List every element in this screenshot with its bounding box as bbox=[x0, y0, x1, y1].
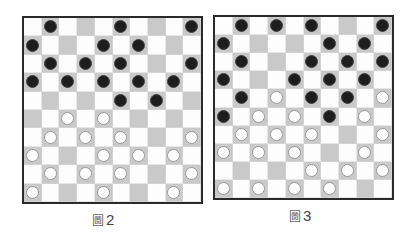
light-square bbox=[374, 180, 392, 198]
white-piece-icon bbox=[270, 91, 283, 104]
dark-square bbox=[339, 89, 357, 107]
white-piece-icon bbox=[97, 186, 110, 199]
light-square bbox=[357, 126, 375, 144]
black-piece-icon bbox=[79, 57, 92, 70]
dark-square bbox=[130, 110, 148, 128]
dark-square bbox=[304, 53, 322, 71]
white-piece-icon bbox=[305, 164, 318, 177]
light-square bbox=[304, 35, 322, 53]
black-piece-icon bbox=[305, 91, 318, 104]
light-square bbox=[286, 53, 304, 71]
dark-square bbox=[286, 71, 304, 89]
figure-3-caption: 圖 3 bbox=[289, 207, 311, 224]
dark-square bbox=[95, 147, 113, 165]
light-square bbox=[374, 71, 392, 89]
white-piece-icon bbox=[217, 146, 230, 159]
dark-square bbox=[130, 36, 148, 54]
light-square bbox=[339, 180, 357, 198]
light-square bbox=[250, 53, 268, 71]
light-square bbox=[374, 108, 392, 126]
black-piece-icon bbox=[235, 19, 248, 32]
dark-square bbox=[233, 162, 251, 180]
dark-square bbox=[77, 55, 95, 73]
black-piece-icon bbox=[270, 19, 283, 32]
dark-square bbox=[374, 126, 392, 144]
dark-square bbox=[268, 89, 286, 107]
light-square bbox=[24, 165, 42, 183]
white-piece-icon bbox=[270, 128, 283, 141]
black-piece-icon bbox=[97, 39, 110, 52]
black-piece-icon bbox=[44, 20, 57, 33]
white-piece-icon bbox=[185, 167, 198, 180]
light-square bbox=[357, 89, 375, 107]
dark-square bbox=[148, 18, 166, 36]
dark-square bbox=[113, 55, 131, 73]
white-piece-icon bbox=[217, 182, 230, 195]
light-square bbox=[148, 184, 166, 202]
dark-square bbox=[183, 165, 201, 183]
light-square bbox=[321, 53, 339, 71]
light-square bbox=[321, 17, 339, 35]
dark-square bbox=[113, 18, 131, 36]
light-square bbox=[95, 55, 113, 73]
light-square bbox=[250, 89, 268, 107]
dark-square bbox=[215, 180, 233, 198]
white-piece-icon bbox=[26, 186, 39, 199]
black-piece-icon bbox=[217, 110, 230, 123]
light-square bbox=[130, 92, 148, 110]
dark-square bbox=[321, 144, 339, 162]
dark-square bbox=[357, 108, 375, 126]
light-square bbox=[268, 35, 286, 53]
light-square bbox=[59, 165, 77, 183]
dark-square bbox=[77, 128, 95, 146]
light-square bbox=[233, 144, 251, 162]
black-piece-icon bbox=[235, 91, 248, 104]
white-piece-icon bbox=[167, 149, 180, 162]
white-piece-icon bbox=[167, 186, 180, 199]
light-square bbox=[250, 126, 268, 144]
figure-number: 3 bbox=[303, 207, 311, 224]
dark-square bbox=[268, 162, 286, 180]
white-piece-icon bbox=[288, 146, 301, 159]
black-piece-icon bbox=[114, 20, 127, 33]
dark-square bbox=[59, 110, 77, 128]
dark-square bbox=[374, 89, 392, 107]
dark-square bbox=[113, 165, 131, 183]
light-square bbox=[183, 184, 201, 202]
black-piece-icon bbox=[358, 73, 371, 86]
dark-square bbox=[339, 162, 357, 180]
white-piece-icon bbox=[358, 146, 371, 159]
black-piece-icon bbox=[132, 75, 145, 88]
dark-square bbox=[215, 144, 233, 162]
black-piece-icon bbox=[132, 39, 145, 52]
black-piece-icon bbox=[376, 19, 389, 32]
white-piece-icon bbox=[376, 164, 389, 177]
dark-square bbox=[24, 36, 42, 54]
light-square bbox=[77, 36, 95, 54]
black-piece-icon bbox=[323, 37, 336, 50]
light-square bbox=[148, 147, 166, 165]
black-piece-icon bbox=[305, 19, 318, 32]
black-piece-icon bbox=[305, 55, 318, 68]
dark-square bbox=[42, 18, 60, 36]
white-piece-icon bbox=[114, 131, 127, 144]
white-piece-icon bbox=[341, 164, 354, 177]
dark-square bbox=[286, 35, 304, 53]
dark-square bbox=[286, 180, 304, 198]
dark-square bbox=[77, 165, 95, 183]
light-square bbox=[233, 71, 251, 89]
dark-square bbox=[374, 53, 392, 71]
dark-square bbox=[148, 92, 166, 110]
white-piece-icon bbox=[185, 131, 198, 144]
light-square bbox=[286, 17, 304, 35]
light-square bbox=[42, 184, 60, 202]
light-square bbox=[148, 73, 166, 91]
light-square bbox=[113, 36, 131, 54]
light-square bbox=[113, 147, 131, 165]
checkerboard-figure-3 bbox=[213, 15, 394, 200]
light-square bbox=[166, 18, 184, 36]
dark-square bbox=[250, 108, 268, 126]
black-piece-icon bbox=[235, 55, 248, 68]
white-piece-icon bbox=[305, 128, 318, 141]
dark-square bbox=[304, 126, 322, 144]
